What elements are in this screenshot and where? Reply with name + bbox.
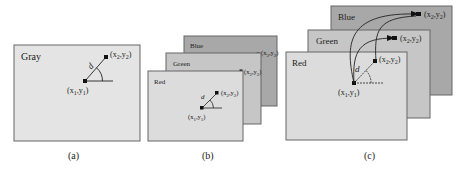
green-layer-label: Green [173, 60, 191, 68]
blue-point-2-label: (x2,y2) [424, 10, 446, 20]
point-2-marker [215, 91, 219, 95]
panel-c: Blue Green Red d (x2,y2) (x1,y1) (x2,y2)… [286, 6, 452, 140]
red-layer-b: Red d (x2,y2) (x1,y1) [148, 71, 243, 141]
point-2-marker [104, 55, 108, 59]
blue-layer-label: Blue [338, 12, 355, 22]
red-layer-label: Red [154, 78, 166, 86]
blue-layer-label: Blue [190, 42, 203, 50]
distance-label: d [201, 93, 205, 101]
point-2-label: (x2,y2) [110, 50, 132, 60]
point-1-label: (x1,y1) [67, 86, 89, 96]
green-point-2-label: (x2,y2) [400, 34, 422, 44]
distance-label: d [355, 64, 360, 74]
panel-a: Gray d (x2,y2) (x1,y1) [14, 45, 140, 141]
point-2-label: (x2,y2) [379, 55, 401, 65]
red-layer-label: Red [292, 58, 307, 68]
point-1-marker [83, 79, 87, 83]
point-1-marker [200, 106, 204, 110]
blue-point-2-marker [416, 12, 421, 16]
red-layer-c: Red d (x2,y2) (x1,y1) [286, 52, 407, 140]
caption-a: (a) [68, 150, 79, 162]
figure-canvas: Gray d (x2,y2) (x1,y1) (a) Blue d (x2,y2… [0, 0, 465, 171]
point-2-marker [373, 59, 377, 63]
caption-c: (c) [364, 150, 375, 162]
caption-b: (b) [202, 150, 214, 162]
panel-b: Blue d (x2,y2) Green d (x2,y2) Red [148, 36, 278, 141]
point-1-label: (x1,y1) [338, 88, 360, 98]
gray-layer-label: Gray [21, 51, 41, 62]
green-layer-label: Green [316, 36, 338, 46]
green-point-2-marker [392, 36, 397, 40]
